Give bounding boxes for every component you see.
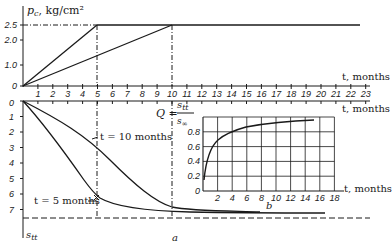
inset-chart <box>203 117 344 191</box>
xtick: 16 <box>256 89 266 99</box>
inset-ytick: 0 <box>195 186 200 196</box>
top-ylabel: pc, kg/cm² <box>27 4 84 18</box>
xtick: 7 <box>125 89 131 99</box>
xtick: 19 <box>301 89 311 99</box>
label-t5: t = 5 months <box>34 195 100 206</box>
xtick: 18 <box>286 89 296 99</box>
top-xlabel: t, months <box>342 71 390 82</box>
xtick: 1 <box>35 89 40 99</box>
inset-xtick: 18 <box>329 193 339 203</box>
ytick: 2.0 <box>3 35 17 45</box>
inset-xtick: 2 <box>214 193 220 203</box>
inset-xtick: 12 <box>286 193 296 203</box>
ytick: 1.0 <box>4 60 17 70</box>
xtick: 14 <box>227 89 237 99</box>
inset-ytick: 0.6 <box>187 142 200 152</box>
xtick: 20 <box>315 89 326 99</box>
xtick: 2 <box>49 89 55 99</box>
bottom-xlabel: t, months <box>342 103 390 114</box>
inset-xlabel: t, months <box>344 183 392 194</box>
xtick: 5 <box>95 89 101 99</box>
formula-lhs: Q = <box>156 107 178 120</box>
ytick: 2 <box>8 127 14 137</box>
inset-xtick: 4 <box>230 193 235 203</box>
xtick: 10 <box>167 89 177 99</box>
inset-xtick: 6 <box>244 193 249 203</box>
ytick: 7 <box>9 205 15 215</box>
xtick: 3 <box>65 89 70 99</box>
inset-ytick: 0.4 <box>187 156 200 166</box>
ytick: 5 <box>9 174 15 184</box>
ytick: 0 <box>9 98 14 108</box>
xtick: 4 <box>80 89 85 99</box>
panel-b-label: b <box>266 200 272 211</box>
xtick: 15 <box>241 89 252 99</box>
q-curve <box>204 120 314 180</box>
xtick: 11 <box>182 89 191 99</box>
ramp-5-months <box>23 25 97 86</box>
xtick: 8 <box>140 89 145 99</box>
ytick: 3 <box>9 143 14 153</box>
label-t10: t = 10 months <box>100 131 172 142</box>
consolidation-diagram: pc, kg/cm² 0 1.0 2.0 2.5 t, months 12345… <box>0 0 392 248</box>
ytick: 1 <box>9 112 14 122</box>
ytick: 4 <box>9 158 14 168</box>
inset-ytick: 0.2 <box>187 171 200 181</box>
formula-den: s∞ <box>177 116 188 128</box>
panel-a-label: a <box>172 232 178 243</box>
ytick: 6 <box>9 189 14 199</box>
xtick: 12 <box>197 89 207 99</box>
xtick: 17 <box>271 89 282 99</box>
inset-xtick: 14 <box>300 193 310 203</box>
bottom-ylabel: stt <box>26 229 38 242</box>
ytick: 2.5 <box>3 20 18 30</box>
xtick: 9 <box>155 89 160 99</box>
xtick: 23 <box>360 89 371 99</box>
xtick: 13 <box>212 89 222 99</box>
inset-xtick: 8 <box>259 193 264 203</box>
inset-ytick: 0.8 <box>187 127 200 137</box>
xtick: 21 <box>330 89 341 99</box>
xtick: 22 <box>345 89 356 99</box>
inset-xtick: 16 <box>315 193 325 203</box>
inset-xtick: 10 <box>271 193 281 203</box>
ytick: 0 <box>12 81 17 91</box>
xtick: 6 <box>110 89 115 99</box>
